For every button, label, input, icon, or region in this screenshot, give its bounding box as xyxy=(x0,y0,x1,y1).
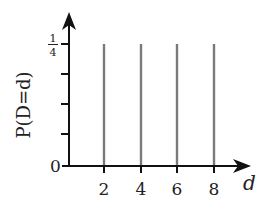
x-tick-label-4: 4 xyxy=(136,179,147,199)
y-axis-label: P(D=d) xyxy=(13,71,34,138)
origin-label: 0 xyxy=(50,156,61,176)
svg-text:1: 1 xyxy=(50,32,57,45)
probability-stem-chart: 0 2 4 6 8 d 1 4 P(D=d) xyxy=(0,0,276,206)
x-axis-label: d xyxy=(243,171,256,195)
svg-text:4: 4 xyxy=(50,46,57,59)
x-tick-label-8: 8 xyxy=(209,179,220,199)
x-tick-label-2: 2 xyxy=(99,179,110,199)
y-axis xyxy=(61,22,69,166)
x-axis xyxy=(62,166,242,173)
y-tick-label-quarter: 1 4 xyxy=(48,32,58,59)
stems xyxy=(104,44,214,166)
x-tick-label-6: 6 xyxy=(172,179,183,199)
